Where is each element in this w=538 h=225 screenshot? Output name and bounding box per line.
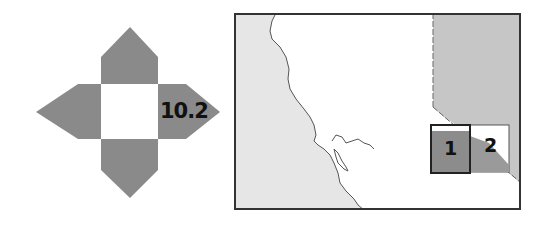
cross-arm-left xyxy=(36,84,101,139)
inset-box-2-label: 2 xyxy=(484,134,497,156)
section-number-label: 10.2 xyxy=(160,99,208,123)
cross-arm-top xyxy=(101,27,158,84)
locator-map: 1 2 xyxy=(234,13,521,210)
cross-center xyxy=(101,84,158,139)
cross-arm-bottom xyxy=(101,139,158,198)
map-graphic xyxy=(234,13,521,210)
locator-cross-icon: 10.2 xyxy=(0,0,230,225)
inset-box-1-label: 1 xyxy=(444,137,457,159)
